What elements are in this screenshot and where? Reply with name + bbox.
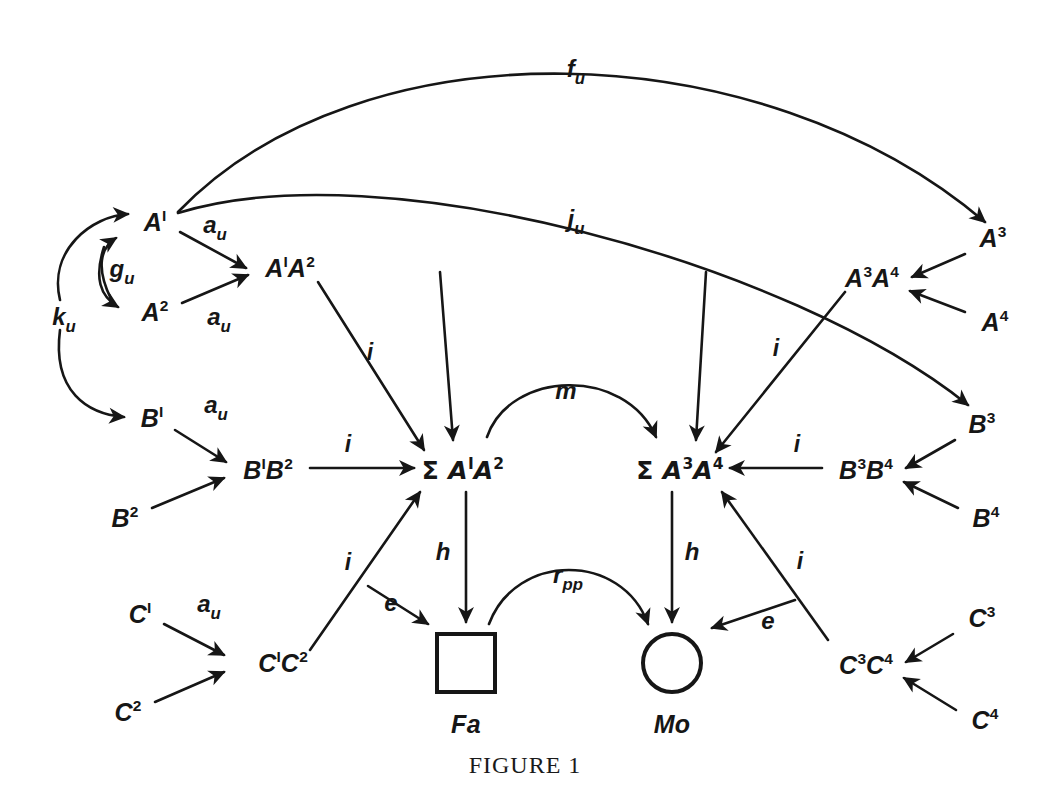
node-c2: C2 xyxy=(115,697,142,726)
edge-top-into-S12 xyxy=(440,272,453,440)
edge-label-m: m xyxy=(555,377,576,405)
edge-label-i4: i xyxy=(773,335,779,362)
edge-e-left xyxy=(368,586,428,624)
edge-label-ju: ju xyxy=(568,205,585,238)
edge-A2-to-A1A2 xyxy=(182,275,248,303)
edge-C3-to-C3C4 xyxy=(906,634,953,662)
edge-B1-to-B1B2 xyxy=(175,430,226,462)
node-a1: AI xyxy=(144,207,167,236)
edge-label-rpp: rpp xyxy=(553,561,583,594)
edge-A1A2-to-S12 xyxy=(318,282,424,450)
node-c1: CI xyxy=(129,599,152,628)
node-b3b4: B3B4 xyxy=(839,455,893,484)
node-c3: C3 xyxy=(969,603,996,632)
figure-diagram: AIA2AIA2BIB2BIB2CIC2CIC2Σ AIA2Σ A3A4A3A3… xyxy=(0,0,1050,785)
edge-label-i2: i xyxy=(345,431,351,458)
edge-ku-to-B1 xyxy=(59,330,124,417)
edge-label-e2: e xyxy=(761,607,774,635)
node-b1: BI xyxy=(141,403,164,432)
node-b2: B2 xyxy=(112,503,139,532)
node-c3c4: C3C4 xyxy=(839,650,893,679)
edge-label-i5: i xyxy=(794,431,800,458)
edge-C1-to-C1C2 xyxy=(164,624,224,655)
shape-label-mo: Mo xyxy=(654,710,691,739)
node-a4: A4 xyxy=(982,307,1009,336)
edge-A4-to-A3A4 xyxy=(910,291,965,312)
edge-label-e1: e xyxy=(384,589,397,617)
shape-mo xyxy=(641,632,703,694)
edge-label-i1: i xyxy=(367,339,373,366)
node-b3: B3 xyxy=(969,409,996,438)
edge-e-right xyxy=(712,600,795,628)
shape-fa xyxy=(435,632,497,694)
edge-A3A4-to-S34 xyxy=(716,292,845,452)
node-c1c2: CIC2 xyxy=(258,648,308,677)
edge-label-ku: ku xyxy=(52,303,76,336)
edge-label-au3: au xyxy=(204,391,228,424)
edge-label-fu: fu xyxy=(567,55,585,88)
edge-label-h2: h xyxy=(685,538,700,566)
edge-label-i3: i xyxy=(345,549,351,576)
node-c4: C4 xyxy=(972,705,999,734)
shape-label-fa: Fa xyxy=(451,710,481,739)
figure-caption: FIGURE 1 xyxy=(0,752,1050,779)
node-sa3a4: Σ A3A4 xyxy=(636,455,723,484)
edge-C3C4-to-S34 xyxy=(722,492,828,640)
node-a3: A3 xyxy=(980,223,1007,252)
edge-B4-to-B3B4 xyxy=(904,482,958,508)
edge-A3-to-A3A4 xyxy=(912,254,965,277)
edge-label-au1: au xyxy=(203,211,227,244)
edge-label-h1: h xyxy=(436,538,451,566)
node-b1b2: BIB2 xyxy=(243,455,293,484)
edge-B3-to-B3B4 xyxy=(906,440,955,468)
node-sa1a2: Σ AIA2 xyxy=(422,455,504,484)
node-a3a4: A3A4 xyxy=(845,263,899,292)
edge-C2-to-C1C2 xyxy=(155,672,224,702)
edge-label-au4: au xyxy=(197,590,221,623)
edge-C4-to-C3C4 xyxy=(904,678,956,710)
edge-label-gu: gu xyxy=(110,255,135,288)
edge-B2-to-B1B2 xyxy=(152,478,224,508)
edge-fu-curve xyxy=(178,74,985,222)
node-b4: B4 xyxy=(973,503,1000,532)
node-a1a2: AIA2 xyxy=(265,253,315,282)
edge-label-au2: au xyxy=(207,303,231,336)
edge-C1C2-to-S12 xyxy=(310,492,420,650)
edge-label-i6: i xyxy=(797,548,803,575)
edge-top-into-S34 xyxy=(696,272,706,440)
node-a2: A2 xyxy=(142,297,169,326)
